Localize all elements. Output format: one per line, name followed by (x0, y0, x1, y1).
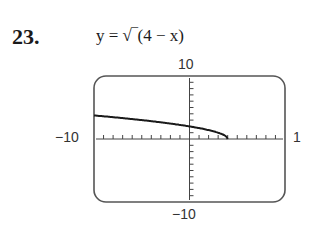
graph-window (0, 0, 314, 226)
axes (96, 78, 283, 200)
